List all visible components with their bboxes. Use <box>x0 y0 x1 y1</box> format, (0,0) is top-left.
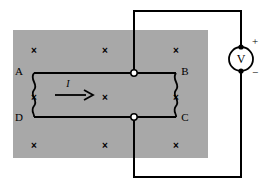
field-mark-x: × <box>31 140 37 151</box>
voltmeter-positive-sign: + <box>252 35 258 47</box>
field-mark-x: × <box>102 140 108 151</box>
voltmeter-positive-terminal-dot <box>238 44 243 49</box>
corner-label-b: B <box>181 65 188 77</box>
node-top <box>131 70 137 76</box>
corner-label-d: D <box>15 111 23 123</box>
voltmeter-symbol: V <box>237 52 246 66</box>
physics-diagram-figure: × × × × × × × × × <box>0 0 267 188</box>
field-mark-x: × <box>173 45 179 56</box>
field-mark-x: × <box>31 45 37 56</box>
field-mark-x: × <box>102 45 108 56</box>
corner-label-c: C <box>181 111 188 123</box>
field-mark-x: × <box>173 140 179 151</box>
voltmeter-negative-sign: − <box>252 66 258 78</box>
voltmeter: V + − <box>229 35 258 78</box>
current-label: I <box>65 78 70 89</box>
diagram-canvas: × × × × × × × × × <box>0 0 267 188</box>
field-mark-x: × <box>102 92 108 103</box>
corner-label-a: A <box>15 65 23 77</box>
voltmeter-negative-terminal-dot <box>238 68 243 73</box>
node-bottom <box>131 114 137 120</box>
